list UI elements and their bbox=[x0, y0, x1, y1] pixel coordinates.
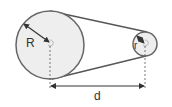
distance-d-label: d bbox=[94, 89, 101, 103]
belt-pulley-diagram: R r d bbox=[0, 0, 172, 107]
radius-R-label: R bbox=[26, 36, 35, 50]
